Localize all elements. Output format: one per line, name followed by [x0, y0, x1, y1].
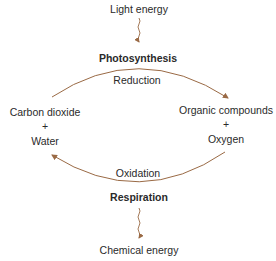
- oxidation-label: Oxidation: [116, 167, 160, 179]
- chemical-energy-arrow: [138, 208, 140, 238]
- reduction-label: Reduction: [113, 74, 160, 86]
- organic-compounds-label: Organic compounds: [179, 104, 273, 116]
- left-plus-sign: +: [42, 120, 48, 132]
- oxygen-label: Oxygen: [208, 133, 244, 145]
- right-plus-sign: +: [223, 118, 229, 130]
- carbon-dioxide-label: Carbon dioxide: [10, 106, 81, 118]
- respiration-label: Respiration: [110, 191, 168, 203]
- light-energy-arrow: [138, 18, 140, 42]
- water-label: Water: [31, 135, 59, 147]
- chemical-energy-label: Chemical energy: [100, 244, 179, 256]
- photosynthesis-label: Photosynthesis: [99, 52, 177, 64]
- light-energy-label: Light energy: [110, 3, 168, 15]
